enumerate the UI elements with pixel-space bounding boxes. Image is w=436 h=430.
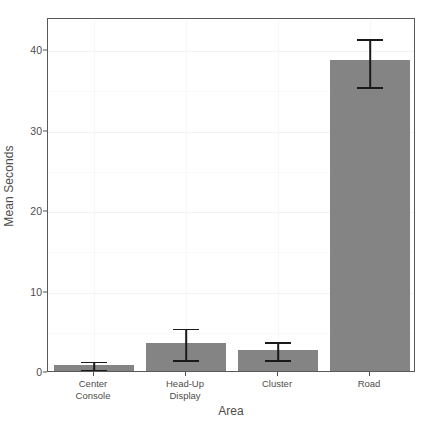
x-axis: Area CenterConsoleHead-UpDisplayClusterR… — [47, 372, 415, 430]
y-tick-label: 10 — [18, 286, 42, 298]
error-bar-cap-lower — [357, 87, 383, 89]
error-bar-cap-upper — [173, 329, 199, 331]
x-tick-label-line: Center — [76, 378, 111, 390]
x-tick-label: Cluster — [262, 378, 292, 390]
plot-panel — [47, 18, 415, 372]
x-tick-label-line: Display — [166, 390, 204, 402]
plot-area — [48, 19, 414, 371]
x-tick-label-line: Console — [76, 390, 111, 402]
error-bar-cap-lower — [81, 370, 107, 371]
y-tick-label: 40 — [18, 44, 42, 56]
x-tick-label: Road — [358, 378, 381, 390]
x-tick-mark — [277, 372, 278, 376]
y-axis: 010203040 — [18, 0, 42, 430]
y-tick-label: 30 — [18, 125, 42, 137]
gridline-vertical — [94, 19, 95, 371]
gridline-major — [48, 51, 414, 52]
y-tick-label: 20 — [18, 205, 42, 217]
error-bar-line — [185, 330, 187, 361]
gridline-vertical — [186, 19, 187, 371]
error-bar-cap-lower — [173, 360, 199, 362]
error-bar-cap-upper — [265, 342, 291, 344]
y-tick-label: 0 — [18, 366, 42, 378]
x-tick-mark — [93, 372, 94, 376]
bar — [330, 60, 410, 371]
bar-chart: Mean Seconds 010203040 Area CenterConsol… — [0, 0, 436, 430]
y-axis-title: Mean Seconds — [0, 0, 18, 372]
x-tick-mark — [369, 372, 370, 376]
x-tick-label-line: Head-Up — [166, 378, 204, 390]
x-tick-label-line: Cluster — [262, 378, 292, 390]
error-bar-cap-upper — [81, 362, 107, 364]
error-bar-cap-lower — [265, 360, 291, 362]
x-tick-label: CenterConsole — [76, 378, 111, 401]
gridline-vertical — [278, 19, 279, 371]
x-tick-label: Head-UpDisplay — [166, 378, 204, 401]
error-bar-cap-upper — [357, 39, 383, 41]
error-bar-line — [277, 343, 279, 361]
x-axis-title: Area — [47, 404, 415, 418]
x-tick-mark — [185, 372, 186, 376]
error-bar-line — [369, 40, 371, 88]
x-tick-label-line: Road — [358, 378, 381, 390]
